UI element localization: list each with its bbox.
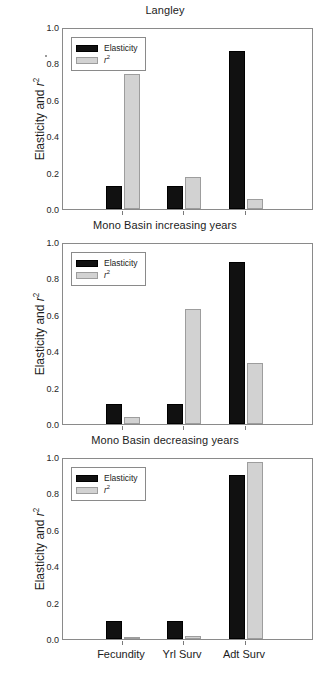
bar-elasticity-adt-surv (229, 51, 245, 209)
y-tick-label: 0.0 (19, 205, 59, 215)
bar-r2-yrl-surv (185, 636, 201, 640)
legend-swatch-r2-icon (76, 272, 98, 279)
bar-r2-adt-surv (247, 363, 263, 424)
y-tick-label: 0.6 (19, 526, 59, 536)
y-tick-label: 0.0 (19, 420, 59, 430)
bar-r2-fecundity (124, 74, 140, 209)
bar-elasticity-fecundity (106, 404, 122, 424)
x-tick-label-adt-surv: Adt Surv (223, 648, 265, 660)
panel-title: Langley (0, 4, 330, 16)
x-tick-mark (245, 641, 246, 645)
bar-elasticity-yrl-surv (167, 621, 183, 639)
bar-r2-fecundity (124, 417, 140, 424)
y-axis-label: Elasticity and r2 (32, 28, 47, 210)
panel-title: Mono Basin increasing years (0, 219, 330, 231)
y-tick-label: 0.6 (19, 311, 59, 321)
bar-r2-fecundity (124, 637, 140, 639)
y-tick-label: 0.2 (19, 599, 59, 609)
x-tick-mark (183, 641, 184, 645)
y-axis-label-wrap: Elasticity and r2 (10, 458, 30, 640)
legend-row-elasticity: Elasticity (76, 472, 138, 484)
legend: Elasticity r2 (71, 252, 146, 286)
y-axis-label: Elasticity and r2 (32, 243, 47, 425)
plot-area: Elasticity r2 (62, 243, 313, 425)
y-tick-label: 0.8 (19, 489, 59, 499)
bar-r2-adt-surv (247, 199, 263, 209)
legend: Elasticity r2 (71, 467, 146, 501)
panel-mono-basin-decreasing: Mono Basin decreasing years Elasticity a… (0, 430, 330, 645)
x-tick-mark (122, 641, 123, 645)
x-tick-label-yrl-surv: Yrl Surv (162, 648, 201, 660)
legend-swatch-r2-icon (76, 57, 98, 64)
bar-r2-yrl-surv (185, 177, 201, 209)
legend-label-elasticity: Elasticity (104, 474, 138, 483)
y-axis-label-symbol: r (33, 82, 47, 86)
y-axis-label-exponent: 2 (32, 508, 41, 513)
legend-label-elasticity: Elasticity (104, 259, 138, 268)
legend-row-r2: r2 (76, 269, 138, 281)
y-tick-label: 1.0 (19, 238, 59, 248)
y-tick-label: 1.0 (19, 453, 59, 463)
y-tick-label: 1.0 (19, 23, 59, 33)
y-tick-label: 0.2 (19, 384, 59, 394)
legend-row-r2: r2 (76, 484, 138, 496)
x-tick-label-fecundity: Fecundity (97, 648, 145, 660)
figure-elasticity-r2-panels: Langley Elasticity and r2 0.0 0.2 0.4 0.… (0, 0, 330, 675)
bar-r2-yrl-surv (185, 309, 201, 424)
y-axis-label-symbol: r (33, 297, 47, 301)
legend-row-elasticity: Elasticity (76, 257, 138, 269)
legend-label-elasticity: Elasticity (104, 44, 138, 53)
bar-elasticity-adt-surv (229, 262, 245, 424)
legend-r2-exponent: 2 (107, 54, 110, 60)
legend-swatch-elasticity-icon (76, 260, 98, 267)
legend: Elasticity r2 (71, 37, 146, 71)
y-axis-label-exponent: 2 (32, 78, 41, 83)
bar-elasticity-fecundity (106, 186, 122, 209)
legend-label-r2: r2 (104, 485, 110, 494)
y-tick-label: 0.8 (19, 274, 59, 284)
y-axis-label-wrap: Elasticity and r2 (10, 28, 30, 210)
bar-elasticity-yrl-surv (167, 186, 183, 209)
y-axis-label-exponent: 2 (32, 293, 41, 298)
y-tick-label: 0.6 (19, 96, 59, 106)
y-tick-label: 0.8 (19, 59, 59, 69)
y-axis-label-wrap: Elasticity and r2 (10, 243, 30, 425)
panel-title: Mono Basin decreasing years (0, 434, 330, 446)
y-tick-label: 0.2 (19, 169, 59, 179)
legend-row-elasticity: Elasticity (76, 42, 138, 54)
plot-area: Elasticity r2 (62, 458, 313, 640)
y-tick-label: 0.4 (19, 562, 59, 572)
legend-swatch-elasticity-icon (76, 45, 98, 52)
y-axis-label-symbol: r (33, 512, 47, 516)
plot-area: Elasticity r2 (62, 28, 313, 210)
bar-elasticity-fecundity (106, 621, 122, 639)
legend-swatch-elasticity-icon (76, 475, 98, 482)
panel-mono-basin-increasing: Mono Basin increasing years Elasticity a… (0, 215, 330, 430)
legend-label-r2: r2 (104, 270, 110, 279)
bar-elasticity-adt-surv (229, 475, 245, 639)
y-tick-label: 0.0 (19, 635, 59, 645)
legend-row-r2: r2 (76, 54, 138, 66)
bar-r2-adt-surv (247, 462, 263, 640)
legend-swatch-r2-icon (76, 487, 98, 494)
y-tick-label: 0.4 (19, 347, 59, 357)
legend-label-r2: r2 (104, 55, 110, 64)
y-tick-label: 0.4 (19, 132, 59, 142)
y-axis-label: Elasticity and r2 (32, 458, 47, 640)
bar-elasticity-yrl-surv (167, 404, 183, 424)
legend-r2-exponent: 2 (107, 269, 110, 275)
panel-langley: Langley Elasticity and r2 0.0 0.2 0.4 0.… (0, 0, 330, 215)
legend-r2-exponent: 2 (107, 484, 110, 490)
